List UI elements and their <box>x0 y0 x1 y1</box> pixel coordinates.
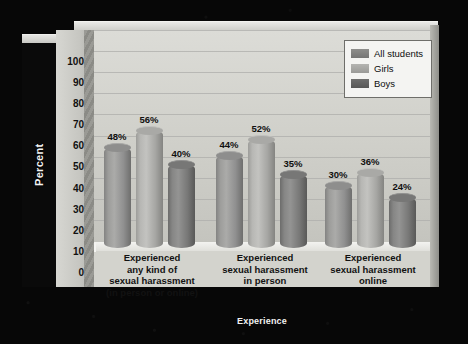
bar-body <box>280 174 307 248</box>
bar-body <box>248 139 275 248</box>
bar-value-all-students-cat1: 44% <box>212 139 246 150</box>
bar-body <box>104 147 131 248</box>
legend-item-all-students[interactable]: All students <box>351 46 425 61</box>
legend-item-girls[interactable]: Girls <box>351 61 425 76</box>
x-category-label-0-line-1: any kind of <box>92 264 212 276</box>
bar-value-girls-cat2: 36% <box>353 156 387 167</box>
bar-body <box>357 172 384 248</box>
bar-top-ellipse <box>389 193 416 202</box>
bar-body <box>325 185 352 248</box>
bar-value-girls-cat0: 56% <box>132 114 166 125</box>
y-tick-label-50: 50 <box>56 162 84 172</box>
x-axis-title: Experience <box>94 316 430 326</box>
x-category-label-2-line-0: Experienced <box>318 252 428 264</box>
bar-girls-cat1[interactable] <box>248 139 275 248</box>
chart-screenshot: Percent 100 90 80 70 60 50 40 30 20 10 0… <box>0 0 468 344</box>
legend-item-boys[interactable]: Boys <box>351 76 425 91</box>
x-category-label-0-line-2: sexual harassment <box>92 275 212 287</box>
bar-boys-cat0[interactable] <box>168 164 195 248</box>
bar-body <box>168 164 195 248</box>
bar-body <box>389 197 416 248</box>
bar-value-girls-cat1: 52% <box>244 123 278 134</box>
bar-value-all-students-cat2: 30% <box>321 169 355 180</box>
legend: All students Girls Boys <box>344 40 432 98</box>
bar-top-ellipse <box>104 143 131 152</box>
bar-top-ellipse <box>280 170 307 179</box>
legend-label-boys: Boys <box>374 78 395 89</box>
x-category-label-0-line-0: Experienced <box>92 252 212 264</box>
bar-top-ellipse <box>325 181 352 190</box>
legend-swatch-boys <box>351 79 369 88</box>
x-category-label-2-line-1: sexual harassment <box>318 264 428 276</box>
bar-all-students-cat0[interactable] <box>104 147 131 248</box>
x-category-label-0: Experienced any kind of sexual harassmen… <box>92 252 212 298</box>
bar-boys-cat2[interactable] <box>389 197 416 248</box>
legend-swatch-girls <box>351 64 369 73</box>
y-tick-label-30: 30 <box>56 205 84 215</box>
y-tick-label-80: 80 <box>56 99 84 109</box>
y-tick-label-20: 20 <box>56 226 84 236</box>
x-category-label-0-line-3: (in person or online) <box>92 287 212 299</box>
y-tick-label-60: 60 <box>56 141 84 151</box>
bar-top-ellipse <box>248 135 275 144</box>
legend-label-girls: Girls <box>374 63 394 74</box>
y-tick-label-40: 40 <box>56 184 84 194</box>
y-tick-label-10: 10 <box>56 247 84 257</box>
bar-value-boys-cat2: 24% <box>385 181 419 192</box>
y-tick-label-70: 70 <box>56 120 84 130</box>
legend-swatch-all-students <box>351 49 369 58</box>
bar-value-boys-cat1: 35% <box>276 158 310 169</box>
y-tick-label-0: 0 <box>56 268 84 278</box>
x-category-label-1-line-2: in person <box>210 275 320 287</box>
bar-value-all-students-cat0: 48% <box>100 131 134 142</box>
x-category-label-2-line-2: online <box>318 275 428 287</box>
x-category-label-1: Experienced sexual harassment in person <box>210 252 320 287</box>
bar-body <box>136 130 163 248</box>
y-axis-panel-side-wall <box>84 30 94 287</box>
bar-boys-cat1[interactable] <box>280 174 307 248</box>
y-tick-label-100: 100 <box>56 57 84 67</box>
bar-top-ellipse <box>168 160 195 169</box>
y-axis-title: Percent <box>22 43 56 287</box>
bar-body <box>216 155 243 248</box>
bar-value-boys-cat0: 40% <box>164 148 198 159</box>
bar-all-students-cat1[interactable] <box>216 155 243 248</box>
bar-girls-cat2[interactable] <box>357 172 384 248</box>
bar-top-ellipse <box>216 151 243 160</box>
x-category-label-1-line-1: sexual harassment <box>210 264 320 276</box>
bar-all-students-cat2[interactable] <box>325 185 352 248</box>
x-category-label-1-line-0: Experienced <box>210 252 320 264</box>
legend-label-all-students: All students <box>374 48 423 59</box>
back-wall-top-edge <box>74 21 438 30</box>
gridline <box>94 30 430 31</box>
bar-top-ellipse <box>136 126 163 135</box>
bar-girls-cat0[interactable] <box>136 130 163 248</box>
x-category-label-2: Experienced sexual harassment online <box>318 252 428 287</box>
y-tick-label-90: 90 <box>56 78 84 88</box>
bar-top-ellipse <box>357 168 384 177</box>
